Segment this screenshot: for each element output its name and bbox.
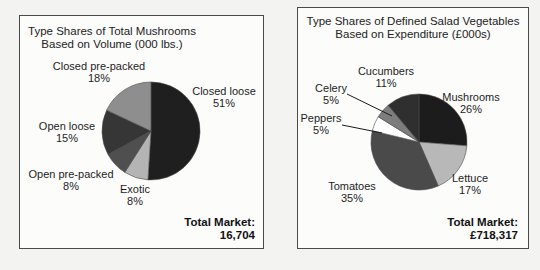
slice-label-percent: 17% xyxy=(452,184,488,196)
slice-label-closed-loose: Closed loose51% xyxy=(192,85,256,109)
label-leader-line xyxy=(347,94,392,116)
slice-label-peppers: Peppers5% xyxy=(301,112,342,136)
slice-label-percent: 11% xyxy=(358,77,414,89)
slice-label-name: Celery xyxy=(315,82,347,94)
salad-expenditure-chart-panel: Type Shares of Defined Salad Vegetables … xyxy=(297,7,529,249)
slice-label-name: Lettuce xyxy=(452,172,488,184)
mushroom-volume-chart-panel: Type Shares of Total Mushrooms Based on … xyxy=(19,15,264,249)
slice-label-percent: 8% xyxy=(120,195,150,207)
slice-label-percent: 35% xyxy=(328,192,376,204)
slice-label-percent: 5% xyxy=(315,94,347,106)
total-market-value: 16,704 xyxy=(184,229,255,242)
slice-label-name: Closed pre-packed xyxy=(53,60,145,72)
chart-title-line1: Type Shares of Total Mushrooms xyxy=(22,25,202,38)
slice-label-name: Exotic xyxy=(120,183,150,195)
total-market-label: Total Market: xyxy=(184,216,255,229)
slice-label-tomatoes: Tomatoes35% xyxy=(328,180,376,204)
chart-title-mushrooms: Type Shares of Total Mushrooms Based on … xyxy=(22,25,202,51)
slice-label-name: Tomatoes xyxy=(328,180,376,192)
slice-label-percent: 18% xyxy=(53,72,145,84)
chart-title-line1: Type Shares of Defined Salad Vegetables xyxy=(298,15,528,28)
chart-title-salad: Type Shares of Defined Salad Vegetables … xyxy=(298,15,528,41)
total-market-salad: Total Market: £718,317 xyxy=(447,216,518,242)
slice-label-name: Open pre-packed xyxy=(29,168,114,180)
slice-label-name: Mushrooms xyxy=(442,91,499,103)
slice-label-exotic: Exotic8% xyxy=(120,183,150,207)
slice-label-name: Peppers xyxy=(301,112,342,124)
slice-label-name: Open loose xyxy=(39,120,95,132)
chart-title-line2: Based on Volume (000 lbs.) xyxy=(22,38,202,51)
slice-label-cucumbers: Cucumbers11% xyxy=(358,65,414,89)
slice-label-percent: 51% xyxy=(192,97,256,109)
total-market-mushrooms: Total Market: 16,704 xyxy=(184,216,255,242)
slice-label-mushrooms: Mushrooms26% xyxy=(442,91,499,115)
total-market-label: Total Market: xyxy=(447,216,518,229)
slice-label-closed-pre-packed: Closed pre-packed18% xyxy=(53,60,145,84)
chart-title-line2: Based on Expenditure (£000s) xyxy=(298,28,528,41)
slice-label-lettuce: Lettuce17% xyxy=(452,172,488,196)
slice-label-celery: Celery5% xyxy=(315,82,347,106)
slice-label-percent: 15% xyxy=(39,132,95,144)
total-market-value: £718,317 xyxy=(447,229,518,242)
slice-label-percent: 5% xyxy=(301,124,342,136)
slice-label-name: Cucumbers xyxy=(358,65,414,77)
slice-label-open-pre-packed: Open pre-packed8% xyxy=(29,168,114,192)
slice-label-name: Closed loose xyxy=(192,85,256,97)
slice-label-percent: 26% xyxy=(442,103,499,115)
slice-label-open-loose: Open loose15% xyxy=(39,120,95,144)
slice-label-percent: 8% xyxy=(29,180,114,192)
